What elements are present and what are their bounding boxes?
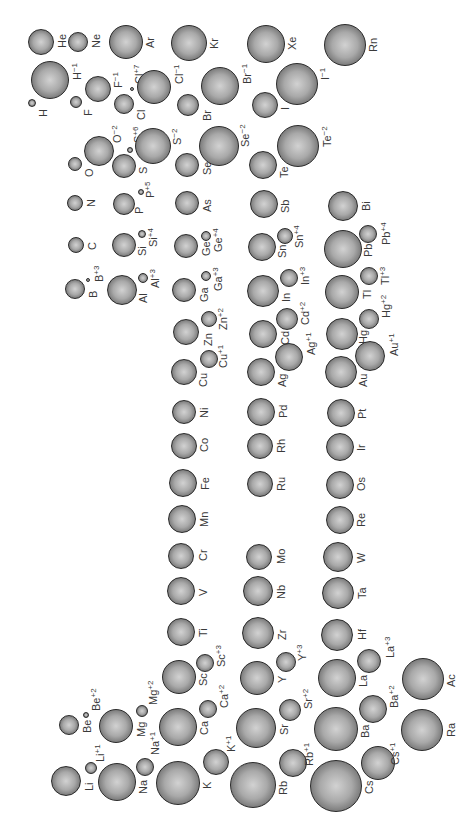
atom-sphere-ag <box>247 358 275 386</box>
atom-label-o: O <box>84 168 95 177</box>
ion-label-cdplus2: Cd+2 <box>300 302 311 325</box>
atom-label-tl: Tl <box>362 290 373 299</box>
ion-sphere-geplus4 <box>201 231 211 241</box>
ion-sphere-naplus1 <box>136 758 154 776</box>
atom-sphere-na <box>98 763 136 801</box>
atom-label-si: Si <box>137 246 148 256</box>
atom-label-ni: Ni <box>199 408 210 418</box>
ion-label-laplus3: La+3 <box>385 637 396 658</box>
ion-label-srplus2: Sr+2 <box>303 689 314 709</box>
atom-sphere-os <box>326 471 354 499</box>
ion-sphere-baplus2 <box>359 695 387 723</box>
ion-label-inplus3: In+3 <box>300 267 311 285</box>
atom-label-ga: Ga <box>199 287 210 302</box>
atom-sphere-cr <box>168 543 194 569</box>
ion-sphere-clplus7 <box>130 87 134 91</box>
ion-label-snplus4: Sn+4 <box>294 225 305 248</box>
atom-label-w: W <box>356 553 367 563</box>
atom-sphere-s <box>112 154 136 178</box>
atom-sphere-li <box>51 766 81 796</box>
atom-sphere-c <box>68 237 84 253</box>
atom-sphere-y <box>240 661 274 695</box>
ion-label-hminus1: H−1 <box>72 63 83 80</box>
atom-sphere-rh <box>247 433 273 459</box>
atom-label-cs: Cs <box>364 781 375 794</box>
ion-label-fminus1: F−1 <box>113 72 124 88</box>
atom-label-sn: Sn <box>277 245 288 258</box>
ion-sphere-scplus3 <box>196 654 214 672</box>
atom-sphere-la <box>318 659 356 697</box>
atom-label-li: Li <box>84 782 95 791</box>
atom-sphere-cu <box>171 359 197 385</box>
ion-label-sminus2: S−2 <box>172 129 183 145</box>
ion-sphere-iminus1 <box>276 63 318 105</box>
atom-label-ba: Ba <box>360 725 371 738</box>
atom-label-pt: Pt <box>357 409 368 419</box>
atom-sphere-ta <box>322 577 354 609</box>
atom-sphere-hf <box>321 619 353 651</box>
ion-sphere-clminus1 <box>137 70 171 104</box>
atom-label-ir: Ir <box>356 444 367 451</box>
atom-label-h: H <box>38 109 49 117</box>
ion-label-iminus1: I−1 <box>320 68 331 80</box>
ion-sphere-alplus3 <box>138 273 148 283</box>
atom-sphere-br <box>177 94 199 116</box>
atom-sphere-rb <box>230 762 276 808</box>
atom-sphere-zr <box>242 617 274 649</box>
atom-label-ra: Ra <box>446 723 457 737</box>
ion-sphere-mgplus2 <box>136 705 148 717</box>
atom-label-zn: Zn <box>203 333 214 346</box>
ion-label-brminus1: Br−1 <box>242 64 253 84</box>
atom-label-ca: Ca <box>199 721 210 735</box>
atom-sphere-ra <box>401 709 443 751</box>
atom-sphere-si <box>112 233 136 257</box>
atom-sphere-be <box>59 715 79 735</box>
atom-label-p: P <box>134 207 145 214</box>
ion-label-pplus5: P+5 <box>145 182 156 198</box>
ion-sphere-teminus2 <box>277 125 319 167</box>
atom-label-rh: Rh <box>276 439 287 453</box>
atom-sphere-ir <box>326 433 354 461</box>
ion-label-pbplus4: Pb+4 <box>381 222 392 245</box>
atom-label-mg: Mg <box>136 722 147 737</box>
atom-sphere-tl <box>325 275 359 309</box>
ion-sphere-ominus2 <box>84 136 114 166</box>
ion-label-yplus3: Y+3 <box>297 645 308 661</box>
atom-sphere-ne <box>68 32 88 52</box>
atom-sphere-cl <box>114 94 134 114</box>
ion-sphere-srplus2 <box>279 699 301 721</box>
atom-sphere-b <box>65 279 85 299</box>
ion-label-seminus2: Se−2 <box>240 124 251 147</box>
atom-label-v: V <box>198 589 209 596</box>
atom-sphere-f <box>70 96 82 108</box>
ion-sphere-yplus3 <box>276 652 296 672</box>
atom-label-hf: Hf <box>357 629 368 640</box>
atom-sphere-sb <box>250 190 278 218</box>
atom-sphere-ba <box>314 707 358 751</box>
ion-label-ominus2: O−2 <box>112 125 123 143</box>
ion-sphere-bplus3 <box>86 278 90 282</box>
atom-sphere-se <box>175 153 199 177</box>
atom-label-la: La <box>358 675 369 687</box>
atom-label-al: Al <box>138 293 149 303</box>
atom-sphere-ca <box>159 708 197 746</box>
ion-sphere-tlplus3 <box>360 267 378 285</box>
ion-label-kplus1: K+1 <box>226 736 237 752</box>
atom-sphere-ar <box>109 25 143 59</box>
atom-sphere-sn <box>248 233 276 261</box>
atom-sphere-mo <box>246 544 272 570</box>
atom-sphere-he <box>28 29 54 55</box>
atom-sphere-h <box>28 99 36 107</box>
atom-label-ti: Ti <box>198 628 209 637</box>
atom-label-na: Na <box>138 780 149 794</box>
atom-sphere-o <box>68 157 82 171</box>
ion-sphere-splus6 <box>127 147 133 153</box>
atom-sphere-mg <box>99 709 133 743</box>
atom-sphere-pd <box>247 398 275 426</box>
atom-label-te: Te <box>279 166 290 178</box>
ion-label-agplus1: Ag+1 <box>306 332 317 355</box>
atom-label-cr: Cr <box>198 549 209 561</box>
atom-sphere-te <box>249 151 277 179</box>
ion-label-scplus3: Sc+3 <box>216 645 227 667</box>
atom-sphere-ti <box>167 618 195 646</box>
